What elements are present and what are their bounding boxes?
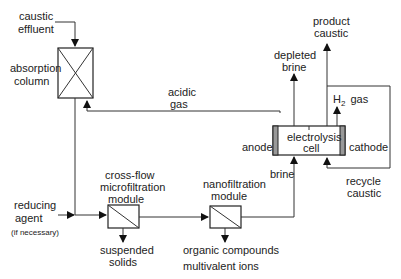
nanofiltration-module: nanofiltration module organic compounds …: [183, 178, 280, 272]
stream-acidic-gas: acidic gas: [87, 86, 280, 113]
recycle-caustic-label-2: caustic: [347, 187, 382, 199]
microfiltration-module: cross-flow microfiltration module suspen…: [100, 169, 165, 268]
organic-compounds-label: organic compounds: [183, 244, 280, 256]
acidic-gas-label-2: gas: [170, 98, 188, 110]
depleted-brine-label-2: brine: [282, 61, 306, 73]
absorption-column-label-2: column: [14, 75, 49, 87]
stream-reducing-agent: reducing agent (if necessary): [11, 199, 106, 237]
reducing-agent-note: (if necessary): [11, 228, 59, 237]
cathode-label: cathode: [349, 141, 388, 153]
absorption-column-label-1: absorption: [10, 62, 61, 74]
product-caustic-label-2: caustic: [314, 27, 349, 39]
caustic-effluent-label-1: caustic: [19, 10, 54, 22]
suspended-solids-label-2: solids: [109, 256, 138, 268]
anode-label: anode: [242, 141, 273, 153]
process-flow-diagram: caustic effluent absorption column acidi…: [0, 0, 401, 279]
brine-label: brine: [270, 168, 294, 180]
stream-product-caustic: product caustic: [313, 15, 350, 126]
caustic-effluent-label-2: effluent: [18, 23, 54, 35]
stream-caustic-effluent: caustic effluent: [18, 10, 75, 46]
stream-h2-gas: H2gas: [333, 93, 369, 126]
microfiltration-label-1: cross-flow: [105, 169, 155, 181]
product-caustic-label-1: product: [313, 15, 350, 27]
nanofiltration-label-1: nanofiltration: [203, 178, 266, 190]
electrolysis-label-2: cell: [303, 142, 320, 154]
microfiltration-label-3: module: [108, 193, 144, 205]
depleted-brine-label-1: depleted: [274, 49, 316, 61]
microfiltration-label-2: microfiltration: [100, 181, 165, 193]
h2-label: H2gas: [333, 93, 369, 108]
multivalent-ions-label: multivalent ions: [183, 260, 259, 272]
reducing-agent-label-2: agent: [15, 212, 43, 224]
absorption-column: absorption column: [10, 48, 93, 98]
recycle-caustic-label-1: recycle: [346, 175, 381, 187]
reducing-agent-label-1: reducing: [14, 199, 56, 211]
suspended-solids-label-1: suspended: [100, 244, 154, 256]
nanofiltration-label-2: module: [211, 190, 247, 202]
electrolysis-cell: electrolysis cell anode cathode: [242, 126, 388, 155]
stream-depleted-brine: depleted brine: [274, 49, 316, 126]
acidic-gas-label-1: acidic: [168, 86, 197, 98]
